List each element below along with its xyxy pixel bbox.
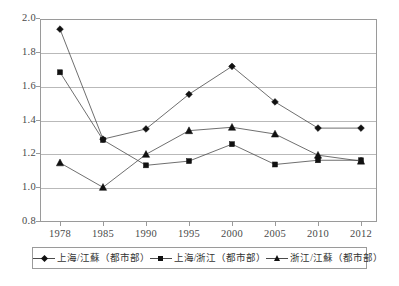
x-tick-mark: [232, 222, 233, 226]
y-tick-mark: [36, 86, 40, 87]
y-tick-mark: [36, 52, 40, 53]
y-tick-mark: [36, 120, 40, 121]
y-tick-mark: [36, 18, 40, 19]
x-tick-mark: [189, 222, 190, 226]
legend-marker-diamond-icon: [33, 253, 55, 263]
legend-label-2: 浙江/江蘇（都市部）: [290, 253, 383, 263]
y-tick-label: 1.0: [2, 182, 36, 192]
legend-marker-triangle-icon: [266, 253, 288, 263]
legend-item-0[interactable]: 上海/江蘇（都市部）: [33, 253, 150, 263]
chart-root: 2.01.81.61.41.21.00.8 197819851990199520…: [0, 0, 399, 286]
legend-label-0: 上海/江蘇（都市部）: [57, 253, 150, 263]
legend-item-2[interactable]: 浙江/江蘇（都市部）: [266, 253, 383, 263]
x-tick-mark: [361, 222, 362, 226]
gridline: [41, 121, 376, 122]
x-tick-label: 2012: [336, 228, 386, 239]
gridline: [41, 154, 376, 155]
gridline: [41, 87, 376, 88]
y-tick-label: 1.8: [2, 47, 36, 57]
x-tick-mark: [60, 222, 61, 226]
y-tick-label: 1.2: [2, 148, 36, 158]
y-tick-label: 1.4: [2, 115, 36, 125]
x-tick-mark: [103, 222, 104, 226]
y-tick-mark: [36, 221, 40, 222]
y-tick-label: 2.0: [2, 13, 36, 23]
y-tick-mark: [36, 153, 40, 154]
x-tick-mark: [146, 222, 147, 226]
legend-label-1: 上海/浙江（都市部）: [174, 253, 267, 263]
gridline: [41, 53, 376, 54]
y-tick-label: 0.8: [2, 216, 36, 226]
legend-marker-square-icon: [150, 253, 172, 263]
gridline: [41, 188, 376, 189]
legend-item-1[interactable]: 上海/浙江（都市部）: [150, 253, 267, 263]
x-tick-mark: [275, 222, 276, 226]
chart-legend: 上海/江蘇（都市部） 上海/浙江（都市部） 浙江/江蘇（都市部）: [32, 247, 367, 269]
y-tick-label: 1.6: [2, 81, 36, 91]
x-tick-mark: [318, 222, 319, 226]
plot-area: [40, 19, 377, 222]
y-tick-mark: [36, 187, 40, 188]
